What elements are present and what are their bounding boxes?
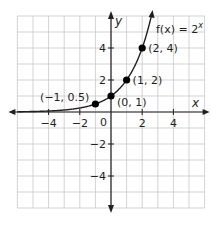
x-tick-label: 2 (139, 117, 146, 130)
point-marker (123, 76, 130, 83)
y-tick-label: 4 (99, 42, 106, 55)
origin-label: 0 (100, 116, 107, 129)
point-label: (1, 2) (133, 74, 163, 87)
point-marker (139, 44, 146, 51)
x-axis-label: x (191, 96, 200, 110)
function-label: f(x) = 2x (156, 21, 203, 36)
data-points: (−1, 0.5)(0, 1)(1, 2)(2, 4) (40, 42, 178, 109)
x-tick-label: −2 (72, 117, 88, 130)
function-label-exponent: x (197, 21, 203, 30)
function-label-base: f(x) = 2 (156, 23, 198, 36)
y-tick-label: 2 (99, 74, 106, 87)
point-marker (92, 100, 99, 107)
y-tick-label: −4 (90, 170, 106, 183)
point-label: (−1, 0.5) (40, 91, 89, 104)
y-axis-label: y (114, 14, 123, 28)
point-marker (107, 92, 114, 99)
point-label: (2, 4) (148, 42, 178, 55)
y-tick-label: −2 (90, 138, 106, 151)
exponential-function-graph: −4−22442−2−4 (−1, 0.5)(0, 1)(1, 2)(2, 4)… (0, 0, 212, 226)
graph-svg: −4−22442−2−4 (−1, 0.5)(0, 1)(1, 2)(2, 4)… (0, 0, 212, 226)
point-label: (0, 1) (117, 96, 147, 109)
x-tick-label: −4 (40, 117, 56, 130)
x-tick-label: 4 (170, 117, 177, 130)
